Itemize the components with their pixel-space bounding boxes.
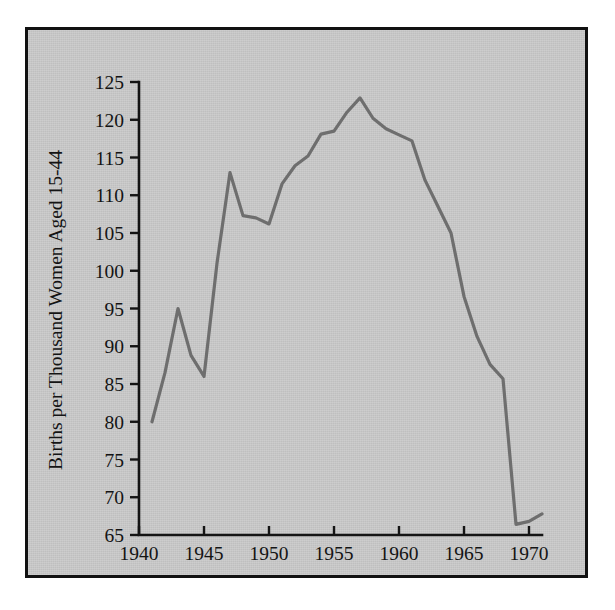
y-tick-label: 95	[105, 299, 125, 320]
x-tick-label: 1960	[380, 543, 419, 564]
x-tick-label: 1965	[445, 543, 484, 564]
y-tick-label: 100	[95, 261, 124, 282]
y-tick-label: 75	[105, 450, 125, 471]
x-tick-label: 1970	[510, 543, 549, 564]
y-tick-label: 115	[95, 148, 124, 169]
x-tick-label: 1955	[315, 543, 354, 564]
y-tick-label: 120	[95, 110, 124, 131]
y-tick-label: 105	[95, 223, 124, 244]
birth-rate-series-line	[152, 98, 542, 525]
y-tick-label: 70	[105, 487, 125, 508]
axis-lines	[139, 82, 542, 535]
y-tick-label: 110	[95, 185, 124, 206]
x-tick-label: 1945	[185, 543, 224, 564]
x-axis-ticks: 1940194519501955196019651970	[120, 526, 549, 564]
y-tick-label: 125	[95, 72, 124, 93]
chart-panel: Births per Thousand Women Aged 15-44 657…	[25, 27, 588, 578]
y-tick-label: 90	[105, 336, 125, 357]
figure-root: Births per Thousand Women Aged 15-44 657…	[0, 0, 615, 610]
x-tick-label: 1950	[250, 543, 289, 564]
x-tick-label: 1940	[120, 543, 159, 564]
y-axis-title: Births per Thousand Women Aged 15-44	[45, 150, 66, 470]
y-tick-label: 80	[105, 412, 125, 433]
y-tick-label: 85	[105, 374, 125, 395]
line-chart-plot: Births per Thousand Women Aged 15-44 657…	[28, 30, 588, 578]
y-axis-ticks: 65707580859095100105110115120125	[95, 72, 139, 546]
